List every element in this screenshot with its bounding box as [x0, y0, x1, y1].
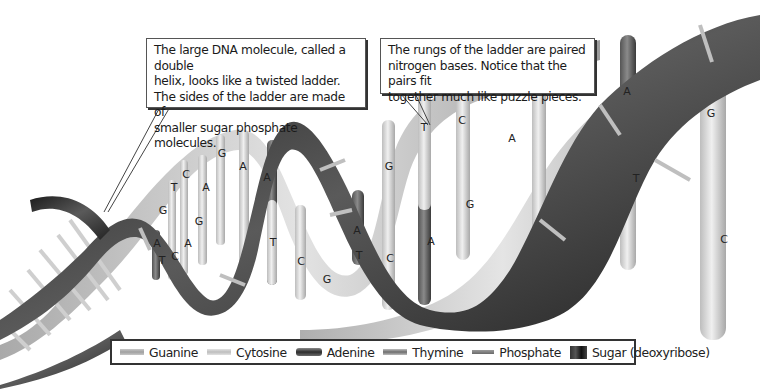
dna-diagram: GAGCTATGCAGATCGCTAAGCATGGAATC The large …	[0, 0, 776, 389]
legend-item-guanine: Guanine	[120, 345, 198, 360]
callout-line: helix, looks like a twisted ladder.	[154, 74, 358, 90]
legend-label: Phosphate	[499, 345, 561, 360]
sugar-swatch-icon	[570, 346, 587, 359]
base-label: C	[182, 168, 190, 181]
legend-item-thymine: Thymine	[383, 345, 463, 360]
callout-double-helix: The large DNA molecule, called a double …	[146, 38, 366, 108]
legend-label: Thymine	[412, 345, 463, 360]
callout-line: together much like puzzle pieces.	[388, 90, 587, 106]
phosphate-swatch-icon	[472, 350, 494, 354]
legend-label: Cytosine	[236, 345, 287, 360]
base-label: A	[427, 235, 435, 248]
callout-line: The large DNA molecule, called a double	[154, 43, 358, 74]
base-label: A	[623, 85, 631, 98]
base-label: G	[707, 107, 716, 120]
callout-line: smaller sugar phosphate molecules.	[154, 121, 358, 152]
base-label: G	[195, 215, 204, 228]
cytosine-swatch-icon	[207, 349, 231, 355]
base-label: G	[159, 204, 168, 217]
base-label: C	[386, 252, 394, 265]
guanine-swatch-icon	[120, 349, 144, 355]
base-label: C	[458, 114, 466, 127]
base-label: T	[170, 181, 178, 194]
base-label: C	[720, 233, 728, 246]
base-label: A	[508, 132, 516, 145]
base-label: A	[239, 160, 247, 173]
base-label: T	[420, 121, 428, 134]
base-label: G	[385, 160, 394, 173]
legend: Guanine Cytosine Adenine Thymine Phospha…	[110, 339, 636, 365]
legend-label: Adenine	[327, 345, 375, 360]
base-label: C	[297, 255, 305, 268]
base-label: G	[466, 198, 475, 211]
base-label: T	[158, 254, 166, 267]
legend-label: Guanine	[149, 345, 198, 360]
base-label: A	[353, 224, 361, 237]
base-label: A	[153, 237, 161, 250]
thymine-swatch-icon	[383, 349, 407, 355]
base-label: T	[632, 172, 640, 185]
legend-label: Sugar (deoxyribose)	[592, 345, 710, 360]
base-label: A	[202, 181, 210, 194]
legend-item-sugar: Sugar (deoxyribose)	[570, 345, 710, 360]
legend-item-cytosine: Cytosine	[207, 345, 287, 360]
callout-line: The rungs of the ladder are paired	[388, 43, 587, 59]
legend-item-phosphate: Phosphate	[472, 345, 561, 360]
base-label: A	[263, 171, 271, 184]
callout-line: nitrogen bases. Notice that the pairs fi…	[388, 59, 587, 90]
base-label: G	[323, 273, 332, 286]
base-label: A	[184, 237, 192, 250]
adenine-swatch-icon	[296, 348, 322, 356]
base-label: C	[171, 250, 179, 263]
base-label: T	[355, 249, 363, 262]
base-label: T	[269, 236, 277, 249]
legend-item-adenine: Adenine	[296, 345, 375, 360]
callout-nitrogen-bases: The rungs of the ladder are paired nitro…	[380, 38, 595, 94]
callout-line: The sides of the ladder are made of	[154, 90, 358, 121]
